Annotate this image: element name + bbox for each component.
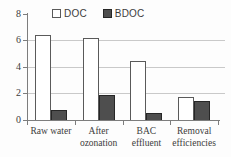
bar-doc-2 [83, 38, 99, 120]
bar-doc-1 [35, 35, 51, 120]
x-axis-line [27, 120, 220, 121]
x-axis-tick [123, 121, 124, 125]
y-axis-tick [23, 93, 27, 94]
bar-bdoc-3 [146, 113, 162, 120]
category-label-4: Removalefficiencies [164, 126, 224, 149]
y-axis-tick [23, 14, 27, 15]
bar-bdoc-2 [99, 95, 115, 120]
legend-swatch-doc-icon [52, 9, 61, 18]
legend-entry-doc: DOC [52, 8, 87, 19]
y-axis-tick-label: 2 [7, 87, 21, 99]
y-axis-tick-label: 4 [7, 61, 21, 73]
x-axis-tick [27, 121, 28, 125]
bar-doc-4 [178, 97, 194, 120]
legend-label-bdoc: BDOC [115, 8, 145, 19]
gridline [28, 67, 225, 68]
plot-area: 02468Raw waterAfterozonationBACeffluentR… [0, 0, 231, 157]
legend-entry-bdoc: BDOC [103, 8, 145, 19]
x-axis-tick [75, 121, 76, 125]
gridline [28, 40, 225, 41]
category-label-line: efficiencies [164, 138, 224, 150]
y-axis-tick [23, 67, 27, 68]
x-axis-tick [170, 121, 171, 125]
bar-bdoc-4 [194, 101, 210, 120]
gridline [28, 93, 225, 94]
doc-bdoc-bar-chart: DOCBDOC 02468Raw waterAfterozonationBACe… [0, 0, 231, 157]
chart-legend: DOCBDOC [52, 8, 145, 19]
y-axis-tick-label: 8 [7, 8, 21, 20]
x-axis-tick [218, 121, 219, 125]
y-axis-tick [23, 40, 27, 41]
legend-label-doc: DOC [64, 8, 87, 19]
bar-bdoc-1 [51, 110, 67, 120]
y-axis-tick-label: 6 [7, 34, 21, 46]
category-label-line: Removal [164, 126, 224, 138]
y-axis-line [27, 13, 28, 121]
legend-swatch-bdoc-icon [103, 9, 112, 18]
bar-doc-3 [130, 61, 146, 120]
y-axis-tick-label: 0 [7, 114, 21, 126]
